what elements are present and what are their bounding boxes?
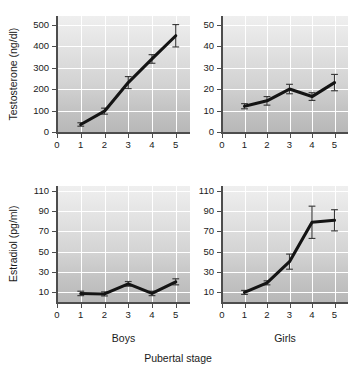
x-axis-line (221, 132, 348, 134)
x-tick-label: 0 (212, 140, 232, 150)
y-tick-label: 200 (15, 84, 49, 94)
x-tick (245, 304, 246, 308)
group-label-girls: Girls (222, 332, 348, 344)
series-estradiol-girls (222, 186, 348, 302)
x-tick (152, 304, 153, 308)
y-tick (52, 252, 56, 253)
y-tick (217, 292, 221, 293)
y-tick-label: 0 (180, 127, 214, 137)
y-tick-label: 20 (180, 84, 214, 94)
y-tick (217, 46, 221, 47)
x-axis-line (56, 302, 190, 304)
y-axis-title-testosterone: Testosterone (ng/dl) (8, 28, 19, 121)
x-tick-label: 0 (47, 140, 67, 150)
x-tick-label: 4 (142, 140, 162, 150)
x-tick (335, 304, 336, 308)
y-tick (52, 68, 56, 69)
x-tick-label: 5 (166, 140, 186, 150)
y-tick-label: 400 (15, 41, 49, 51)
x-tick (290, 304, 291, 308)
x-axis-line (221, 302, 348, 304)
y-tick-label: 0 (15, 127, 49, 137)
x-axis-title: Pubertal stage (0, 352, 356, 364)
x-tick-label: 4 (302, 310, 322, 320)
x-tick-label: 0 (212, 310, 232, 320)
x-tick (128, 304, 129, 308)
x-tick-label: 2 (257, 310, 277, 320)
y-tick (52, 132, 56, 133)
x-tick (105, 304, 106, 308)
x-tick-label: 3 (280, 310, 300, 320)
panel-testosterone-boys: 0100200300400500012345 (57, 16, 190, 132)
y-tick (217, 272, 221, 273)
y-tick-label: 90 (180, 206, 214, 216)
panel-testosterone-girls: 01020304050012345 (222, 16, 348, 132)
x-tick-label: 3 (118, 140, 138, 150)
series-testosterone-boys (57, 16, 190, 132)
y-tick (52, 231, 56, 232)
panel-estradiol-girls: 1030507090110012345 (222, 186, 348, 302)
y-tick (217, 252, 221, 253)
y-tick-label: 50 (180, 20, 214, 30)
x-tick-label: 4 (302, 140, 322, 150)
group-label-boys: Boys (57, 332, 190, 344)
x-tick-label: 4 (142, 310, 162, 320)
y-tick (217, 132, 221, 133)
y-tick (217, 89, 221, 90)
x-tick (312, 134, 313, 138)
x-tick-label: 5 (325, 310, 345, 320)
x-tick-label: 2 (95, 140, 115, 150)
y-tick (52, 89, 56, 90)
x-tick (81, 304, 82, 308)
y-tick-label: 70 (15, 226, 49, 236)
y-tick-label: 50 (180, 247, 214, 257)
x-tick-label: 1 (235, 140, 255, 150)
y-tick-label: 500 (15, 20, 49, 30)
y-tick-label: 10 (180, 106, 214, 116)
x-tick (128, 134, 129, 138)
x-tick (312, 304, 313, 308)
y-tick (52, 25, 56, 26)
y-tick-label: 40 (180, 41, 214, 51)
y-tick-label: 10 (15, 287, 49, 297)
x-tick-label: 1 (235, 310, 255, 320)
y-tick (217, 211, 221, 212)
x-tick (152, 134, 153, 138)
x-tick (57, 304, 58, 308)
y-axis-title-estradiol: Estradiol (pg/ml) (8, 206, 19, 282)
y-tick-label: 100 (15, 106, 49, 116)
x-tick-label: 2 (95, 310, 115, 320)
y-tick-label: 110 (15, 186, 49, 196)
x-tick (267, 304, 268, 308)
y-tick (217, 191, 221, 192)
data-line (81, 282, 176, 294)
y-tick-label: 50 (15, 247, 49, 257)
x-tick (57, 134, 58, 138)
x-tick-label: 5 (325, 140, 345, 150)
y-tick-label: 300 (15, 63, 49, 73)
x-tick (222, 134, 223, 138)
x-tick (176, 134, 177, 138)
y-tick (217, 231, 221, 232)
y-tick (52, 46, 56, 47)
series-estradiol-boys (57, 186, 190, 302)
y-tick-label: 70 (180, 226, 214, 236)
y-tick-label: 110 (180, 186, 214, 196)
y-tick (217, 68, 221, 69)
y-tick-label: 30 (180, 267, 214, 277)
x-tick (267, 134, 268, 138)
x-tick-label: 1 (71, 140, 91, 150)
x-axis-line (56, 132, 190, 134)
x-tick (105, 134, 106, 138)
x-tick-label: 3 (118, 310, 138, 320)
x-tick (176, 304, 177, 308)
x-tick-label: 3 (280, 140, 300, 150)
x-tick (222, 304, 223, 308)
x-tick (335, 134, 336, 138)
y-tick (52, 211, 56, 212)
y-tick-label: 90 (15, 206, 49, 216)
y-tick (217, 111, 221, 112)
series-testosterone-girls (222, 16, 348, 132)
x-tick-label: 0 (47, 310, 67, 320)
y-tick (217, 25, 221, 26)
